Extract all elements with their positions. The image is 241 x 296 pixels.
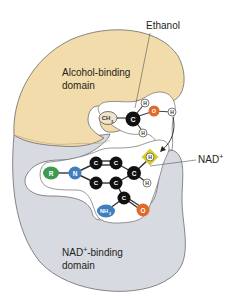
svg-text:H: H: [148, 154, 152, 160]
svg-text:H: H: [145, 180, 149, 186]
alcohol-binding-domain-label: Alcohol-binding: [62, 67, 130, 78]
nad-label: NAD+: [198, 153, 223, 165]
svg-text:C: C: [114, 160, 119, 166]
svg-text:R: R: [49, 170, 54, 177]
svg-text:O: O: [140, 207, 145, 214]
svg-text:CH: CH: [102, 115, 111, 121]
svg-text:C: C: [130, 116, 135, 123]
svg-text:C: C: [94, 180, 99, 186]
nad-binding-domain-label: NAD+-binding: [62, 246, 123, 258]
svg-text:NH: NH: [100, 208, 108, 214]
svg-text:O: O: [152, 108, 157, 114]
svg-text:H: H: [143, 100, 147, 106]
svg-text:N: N: [73, 170, 78, 177]
svg-text:C: C: [114, 180, 119, 186]
svg-text:C: C: [94, 160, 99, 166]
alcohol-dehydrogenase-diagram: Alcohol-binding domain Ethanol CH 3 C H …: [0, 0, 241, 296]
nad-binding-domain-label-line2: domain: [62, 260, 95, 271]
svg-text:2: 2: [109, 212, 111, 216]
alcohol-binding-domain-label-line2: domain: [62, 80, 95, 91]
svg-text:C: C: [132, 170, 137, 177]
svg-text:H: H: [170, 109, 174, 115]
svg-text:C: C: [122, 195, 127, 201]
svg-text:H: H: [141, 130, 145, 136]
ethanol-label: Ethanol: [146, 20, 180, 31]
